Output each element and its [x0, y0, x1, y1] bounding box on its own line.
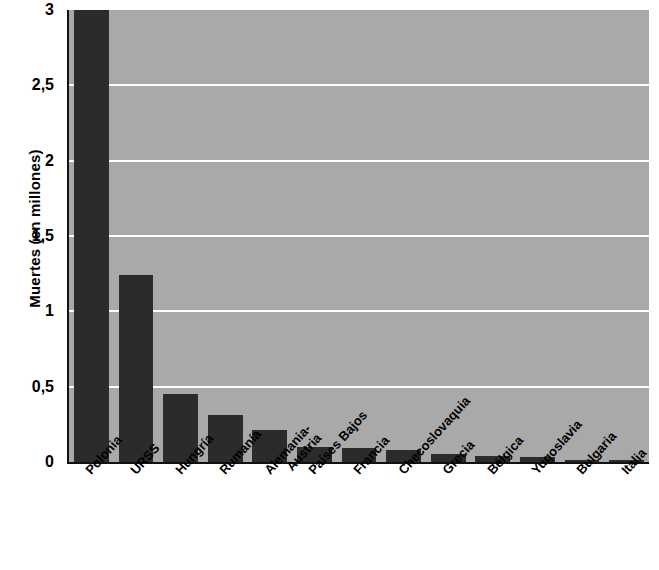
y-axis-tick-label: 2,5	[0, 77, 54, 93]
bars-series	[69, 10, 649, 462]
bar	[74, 10, 109, 462]
y-axis-tick-label: 1	[0, 303, 54, 319]
bar-chart: Muertes (en millones) 32,521,510,50 Polo…	[0, 0, 659, 570]
y-axis-tick-label: 0,5	[0, 379, 54, 395]
y-axis-tick-label: 1,5	[0, 228, 54, 244]
y-axis-tick-labels: 32,521,510,50	[0, 0, 62, 570]
y-axis-tick-label: 2	[0, 153, 54, 169]
y-axis-tick-label: 3	[0, 2, 54, 18]
y-axis-tick-label: 0	[0, 454, 54, 470]
bar	[119, 275, 154, 462]
plot-area	[67, 10, 649, 464]
